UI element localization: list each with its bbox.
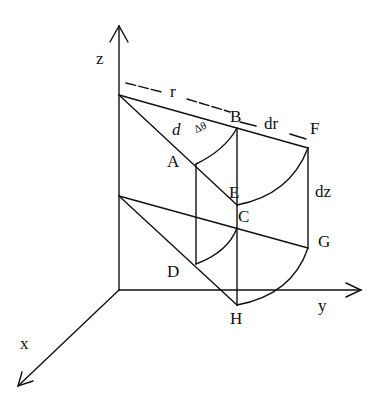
r-dimension-line-2 bbox=[187, 99, 230, 112]
r-label: r bbox=[170, 83, 176, 100]
point-G-label: G bbox=[318, 233, 330, 250]
z-axis-label: z bbox=[96, 50, 104, 67]
dr-tick-2 bbox=[290, 134, 306, 139]
point-D-label: D bbox=[167, 263, 179, 280]
dr-tick-1 bbox=[240, 122, 256, 126]
x-axis-label: x bbox=[20, 335, 29, 352]
point-E-label: E bbox=[229, 184, 239, 201]
point-H-label: H bbox=[230, 310, 242, 327]
d-label: d bbox=[172, 121, 181, 138]
dr-label: dr bbox=[264, 115, 278, 132]
arc-A-B bbox=[196, 128, 237, 164]
y-axis-label: y bbox=[318, 297, 327, 314]
diagram-lines bbox=[0, 0, 388, 408]
arc-E-F bbox=[237, 148, 308, 205]
arc-D-C bbox=[196, 228, 237, 264]
point-B-label: B bbox=[230, 108, 241, 125]
point-F-label: F bbox=[310, 120, 319, 137]
dz-label: dz bbox=[315, 183, 331, 200]
point-A-label: A bbox=[167, 153, 179, 170]
r-dimension-line-1 bbox=[126, 83, 162, 92]
arc-H-G bbox=[237, 248, 308, 305]
x-axis bbox=[18, 290, 119, 386]
cylindrical-element-diagram: z y x r dr dz d Δθ B F A E C G D H bbox=[0, 0, 388, 408]
point-C-label: C bbox=[238, 208, 249, 225]
